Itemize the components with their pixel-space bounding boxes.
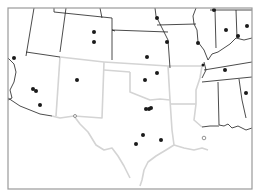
marker-el-paso-ring-icon[interactable] <box>74 115 77 118</box>
marker-stlouis-dot-icon[interactable] <box>196 41 200 45</box>
marker-kansas-dot-icon[interactable] <box>145 55 149 59</box>
marker-colorado-1-dot-icon[interactable] <box>92 30 96 34</box>
map-canvas[interactable] <box>0 0 258 193</box>
marker-louisville-dot-icon[interactable] <box>236 34 240 38</box>
marker-nevada-dot-icon[interactable] <box>12 56 16 60</box>
marker-houston-dot-icon[interactable] <box>159 138 163 142</box>
map-view[interactable] <box>0 0 258 193</box>
marker-san-antonio-dot-icon[interactable] <box>134 142 138 146</box>
marker-tucson-dot-icon[interactable] <box>38 103 42 107</box>
marker-birmingham-dot-icon[interactable] <box>244 91 248 95</box>
marker-kansas-city-dot-icon[interactable] <box>165 40 169 44</box>
marker-dallas-3-dot-icon[interactable] <box>149 106 153 110</box>
marker-nashville-dot-icon[interactable] <box>223 68 227 72</box>
marker-tulsa-dot-icon[interactable] <box>155 71 159 75</box>
map-background <box>0 0 258 193</box>
marker-austin-dot-icon[interactable] <box>141 133 145 137</box>
marker-newmexico-dot-icon[interactable] <box>75 78 79 82</box>
marker-indianapolis-dot-icon[interactable] <box>224 28 228 32</box>
marker-colorado-2-dot-icon[interactable] <box>92 40 96 44</box>
marker-ohio-dot-icon[interactable] <box>245 24 249 28</box>
marker-memphis-dot-icon[interactable] <box>202 64 205 67</box>
marker-nebraska-dot-icon[interactable] <box>155 16 159 20</box>
marker-phoenix-2-dot-icon[interactable] <box>34 89 38 93</box>
marker-okc-dot-icon[interactable] <box>143 78 147 82</box>
marker-new-orleans-ring-icon[interactable] <box>202 136 206 140</box>
